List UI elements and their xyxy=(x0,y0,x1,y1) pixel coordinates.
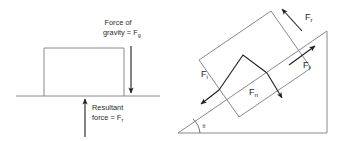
angle-theta-label: θ xyxy=(203,123,206,129)
resultant-label-text: force = F xyxy=(92,113,122,122)
normal-force-arrow xyxy=(267,73,282,98)
figure-canvas: Force of gravity = Fg Resultant force = … xyxy=(0,0,343,141)
flat-ground-diagram: Force of gravity = Fg Resultant force = … xyxy=(16,18,160,137)
normal-force-label: Fn xyxy=(249,87,259,98)
incline-resultant-subscript: r xyxy=(311,16,313,23)
incline-component-arrow xyxy=(201,90,219,104)
gravity-label-line2: gravity = Fg xyxy=(103,28,141,38)
gravity-label-line1: Force of xyxy=(104,18,132,27)
friction-force-subscript: f xyxy=(309,64,311,71)
physics-force-diagram-figure: Force of gravity = Fg Resultant force = … xyxy=(0,0,343,141)
gravity-label-text: gravity = F xyxy=(103,28,138,37)
gravity-label-subscript: g xyxy=(138,32,141,38)
friction-force-arrow xyxy=(289,46,315,65)
resultant-label-line2: force = Fr xyxy=(92,113,123,123)
incline-component-subscript: i xyxy=(207,73,208,80)
ramp-triangle xyxy=(178,31,327,133)
angle-arc xyxy=(193,119,200,133)
incline-resultant-arrow xyxy=(282,9,302,31)
block-outline xyxy=(44,48,124,96)
resultant-label-subscript: r xyxy=(121,117,123,123)
inclined-plane-diagram: θ Fr Ff Fi Fn xyxy=(178,9,327,133)
friction-force-label: Ff xyxy=(303,60,311,71)
resultant-label-line1: Resultant xyxy=(92,103,123,112)
normal-force-subscript: n xyxy=(255,91,259,98)
force-corner-bracket xyxy=(219,55,267,90)
incline-resultant-label: Fr xyxy=(305,12,313,23)
